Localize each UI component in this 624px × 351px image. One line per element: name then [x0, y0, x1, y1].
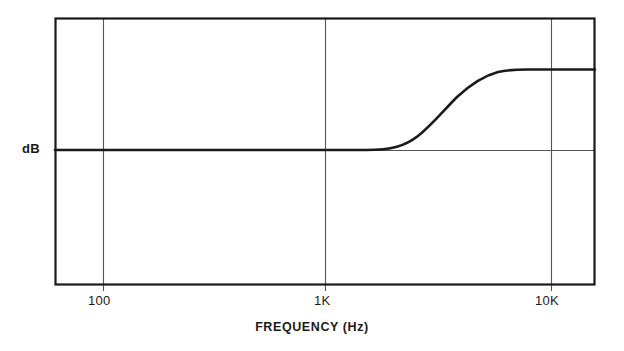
x-axis-title: FREQUENCY (Hz) [0, 320, 624, 334]
x-tick-label-10k: 10K [535, 293, 559, 308]
x-tick-label-1k: 1K [314, 293, 331, 308]
frequency-response-chart: dB 100 1K 10K FREQUENCY (Hz) [0, 0, 624, 351]
y-axis-label: dB [22, 141, 40, 156]
x-tick-label-100: 100 [88, 293, 111, 308]
